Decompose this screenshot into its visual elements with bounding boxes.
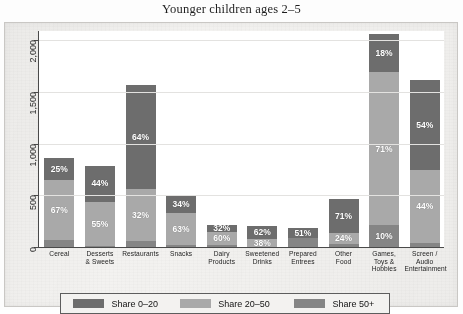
chart-legend: Share 0–20 Share 20–50 Share 50+: [60, 293, 390, 314]
bar-value-label: 44%: [91, 179, 108, 188]
legend-swatch-share-20-50: [180, 299, 211, 308]
legend-item: Share 50+: [280, 299, 389, 309]
bar-value-label: 10%: [376, 232, 393, 241]
bar-value-label: 44%: [416, 202, 433, 211]
bar-segment[interactable]: 71%: [329, 199, 359, 233]
bar-value-label: 55%: [91, 220, 108, 229]
x-axis-label-line: Toys &: [364, 258, 405, 266]
x-axis-label-line: Cereal: [39, 250, 80, 258]
plot-inner: 25%67%44%55%64%32%34%63%32%60%62%38%51%7…: [38, 31, 444, 248]
x-axis-label-line: Hobbies: [364, 265, 405, 273]
bar-group[interactable]: 64%32%: [126, 85, 156, 247]
legend-item: Share 0–20: [61, 299, 170, 309]
y-axis-tick-label: 1,500: [28, 92, 38, 120]
bar-value-label: 63%: [173, 225, 190, 234]
gridline: [38, 195, 444, 196]
bar-segment[interactable]: 10%: [369, 225, 399, 247]
plot-area: 25%67%44%55%64%32%34%63%32%60%62%38%51%7…: [38, 31, 444, 248]
bar-segment[interactable]: 34%: [166, 195, 196, 213]
legend-item: Share 20–50: [170, 299, 279, 309]
bar-group[interactable]: 71%24%: [329, 199, 359, 247]
bar-group[interactable]: 44%55%: [85, 166, 115, 247]
legend-label-share-0-20: Share 0–20: [111, 299, 158, 309]
bar-value-label: 54%: [416, 121, 433, 130]
x-axis-tick-label: DairyProducts: [201, 250, 242, 265]
bar-group[interactable]: 25%67%: [44, 158, 74, 247]
y-axis-tick-label: 0: [28, 247, 38, 275]
x-axis-label-line: Food: [323, 258, 364, 266]
x-axis-tick-label: OtherFood: [323, 250, 364, 265]
chart-panel: 25%67%44%55%64%32%34%63%32%60%62%38%51%7…: [4, 22, 458, 307]
bar-series-container: 25%67%44%55%64%32%34%63%32%60%62%38%51%7…: [39, 31, 444, 247]
bar-value-label: 25%: [51, 165, 68, 174]
x-axis-tick-label: Desserts& Sweets: [80, 250, 121, 265]
bar-group[interactable]: 51%: [288, 228, 318, 247]
x-axis-label-line: Screen /: [404, 250, 445, 258]
x-axis-label-line: Restaurants: [120, 250, 161, 258]
x-axis-label-line: Sweetened: [242, 250, 283, 258]
y-axis-tick-label: 2,000: [28, 40, 38, 68]
bar-segment[interactable]: 32%: [126, 189, 156, 241]
bar-group[interactable]: 54%44%: [410, 80, 440, 247]
bar-group[interactable]: 32%60%: [207, 225, 237, 248]
bar-value-label: 64%: [132, 133, 149, 142]
bar-segment[interactable]: 62%: [247, 226, 277, 239]
x-axis-label-line: Audio: [404, 258, 445, 266]
bar-value-label: 18%: [376, 49, 393, 58]
bar-value-label: 24%: [335, 234, 352, 243]
x-axis-tick-label: PreparedEntrees: [283, 250, 324, 265]
x-axis-tick-labels: CerealDesserts& SweetsRestaurantsSnacksD…: [39, 250, 445, 280]
gridline: [38, 40, 444, 41]
gridline: [38, 144, 444, 145]
bar-group[interactable]: 34%63%: [166, 195, 196, 247]
bar-segment[interactable]: 51%: [288, 228, 318, 238]
y-axis-tick-label: 1,000: [28, 144, 38, 172]
x-axis-tick-label: Restaurants: [120, 250, 161, 258]
bar-segment[interactable]: 25%: [44, 158, 74, 180]
gridline: [38, 92, 444, 93]
x-axis-label-line: Entrees: [283, 258, 324, 266]
y-axis-line: [38, 31, 39, 248]
x-axis-label-line: Desserts: [80, 250, 121, 258]
bar-group[interactable]: 18%71%10%: [369, 34, 399, 247]
chart-title: Younger children ages 2–5: [0, 2, 463, 17]
x-axis-label-line: Drinks: [242, 258, 283, 266]
x-axis-label-line: & Sweets: [80, 258, 121, 266]
bar-group[interactable]: 62%38%: [247, 226, 277, 247]
bar-segment[interactable]: [44, 240, 74, 247]
bar-segment[interactable]: 44%: [410, 170, 440, 243]
x-axis-label-line: Products: [201, 258, 242, 266]
bar-segment[interactable]: [288, 238, 318, 247]
x-axis-label-line: Entertainment: [404, 265, 445, 273]
legend-label-share-20-50: Share 20–50: [218, 299, 270, 309]
x-axis-tick-label: Cereal: [39, 250, 80, 258]
bar-segment[interactable]: 71%: [369, 72, 399, 225]
y-axis-tick-label: 500: [28, 195, 38, 223]
legend-swatch-share-50-plus: [294, 299, 325, 308]
x-axis-line: [38, 247, 444, 248]
legend-swatch-share-0-20: [73, 299, 104, 308]
x-axis-label-line: Dairy: [201, 250, 242, 258]
bar-segment[interactable]: 63%: [166, 213, 196, 246]
bar-value-label: 38%: [254, 239, 271, 247]
x-axis-tick-label: SweetenedDrinks: [242, 250, 283, 265]
bar-value-label: 32%: [132, 211, 149, 220]
x-axis-label-line: Prepared: [283, 250, 324, 258]
x-axis-label-line: Games,: [364, 250, 405, 258]
bar-segment[interactable]: 38%: [247, 239, 277, 247]
x-axis-tick-label: Screen /AudioEntertainment: [404, 250, 445, 273]
bar-segment[interactable]: 24%: [329, 233, 359, 244]
bar-segment[interactable]: 64%: [126, 85, 156, 189]
bar-segment[interactable]: 55%: [85, 202, 115, 246]
bar-value-label: 71%: [376, 145, 393, 154]
bar-value-label: 71%: [335, 212, 352, 221]
bar-value-label: 62%: [254, 228, 271, 237]
x-axis-label-line: Other: [323, 250, 364, 258]
bar-segment[interactable]: 54%: [410, 80, 440, 170]
bar-value-label: 51%: [294, 229, 311, 238]
bar-segment[interactable]: 32%: [207, 225, 237, 232]
bar-segment[interactable]: 67%: [44, 180, 74, 239]
x-axis-tick-label: Snacks: [161, 250, 202, 258]
bar-segment[interactable]: 60%: [207, 232, 237, 245]
